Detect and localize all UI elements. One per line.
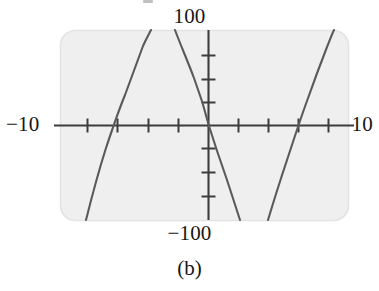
graph-plot-area bbox=[0, 0, 379, 291]
figure-caption: (b) bbox=[0, 258, 379, 279]
y-axis-min-label: −100 bbox=[0, 223, 379, 244]
figure-b: 100 −100 −10 10 (b) bbox=[0, 0, 379, 291]
x-axis-min-label: −10 bbox=[6, 114, 39, 135]
y-axis-max-label: 100 bbox=[0, 6, 379, 27]
x-axis-max-label: 10 bbox=[352, 114, 373, 135]
